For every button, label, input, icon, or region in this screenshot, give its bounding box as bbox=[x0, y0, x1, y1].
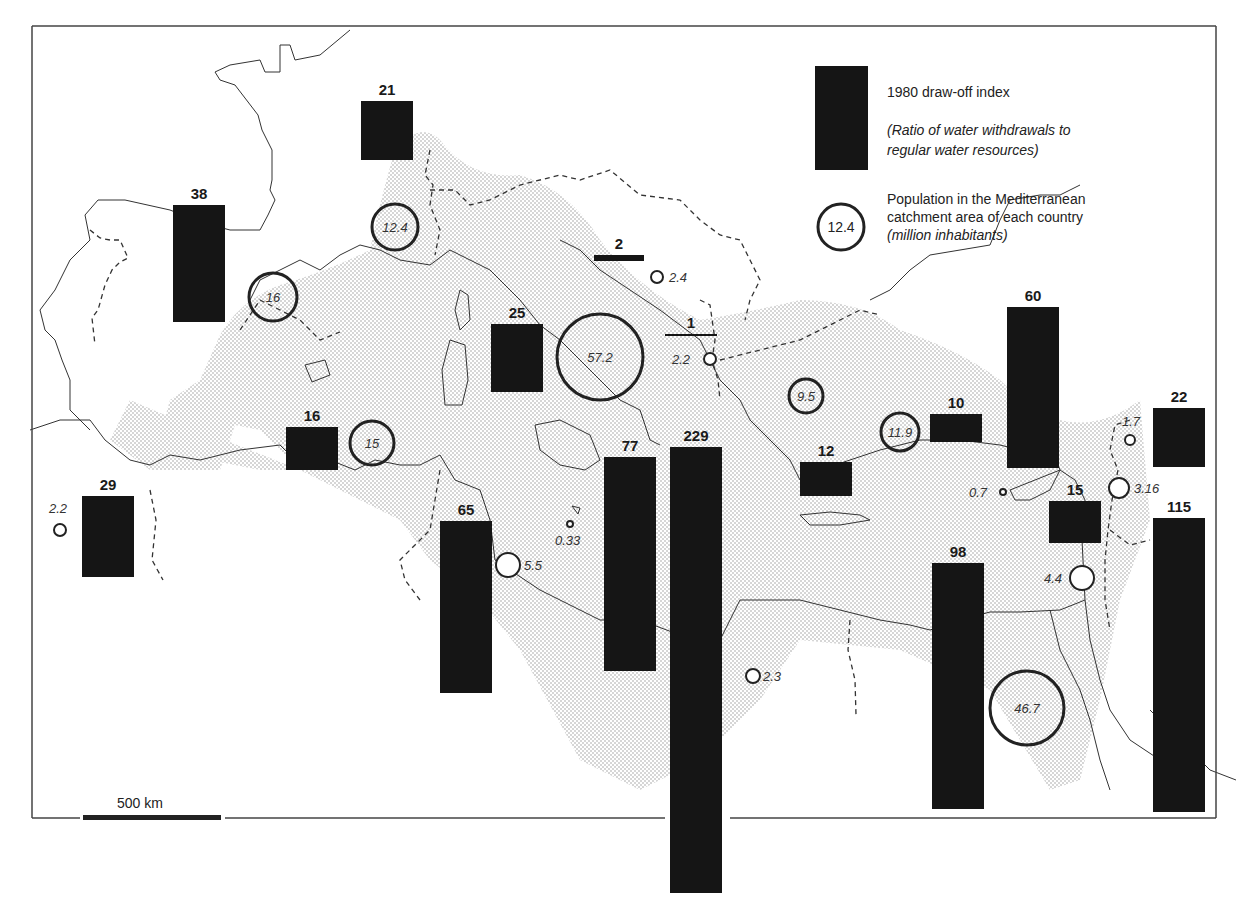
population-label: 3.16 bbox=[1134, 481, 1160, 496]
legend-circle-title-1: Population in the Mediterranean bbox=[887, 191, 1085, 207]
draw-off-bar: 21 bbox=[361, 81, 413, 160]
population-label: 2.3 bbox=[762, 669, 782, 684]
bar-rect bbox=[361, 101, 413, 160]
scale-label: 500 km bbox=[117, 795, 163, 811]
population-label: 4.4 bbox=[1044, 571, 1062, 586]
bar-rect bbox=[1153, 518, 1205, 812]
bar-value-label: 1 bbox=[687, 314, 695, 331]
legend: 1980 draw-off index (Ratio of water with… bbox=[815, 66, 1085, 250]
population-label: 16 bbox=[266, 290, 281, 305]
bar-rect bbox=[670, 447, 722, 893]
bar-value-label: 60 bbox=[1025, 287, 1042, 304]
draw-off-bar: 38 bbox=[173, 185, 225, 322]
population-label: 2.4 bbox=[668, 270, 687, 285]
bar-value-label: 229 bbox=[683, 427, 708, 444]
bar-rect bbox=[594, 255, 644, 261]
circle-shape bbox=[746, 669, 760, 683]
population-label: 0.33 bbox=[555, 533, 581, 548]
circle-shape bbox=[1109, 478, 1129, 498]
legend-circle-sample: 12.4 bbox=[827, 219, 854, 235]
population-circle: 2.4 bbox=[651, 270, 687, 285]
legend-circle-desc: (million inhabitants) bbox=[887, 227, 1008, 243]
population-label: 15 bbox=[365, 436, 380, 451]
circle-shape bbox=[1125, 435, 1135, 445]
bar-rect bbox=[665, 334, 717, 336]
population-label: 12.4 bbox=[382, 220, 407, 235]
bar-rect bbox=[286, 427, 338, 470]
legend-bar-desc-1: (Ratio of water withdrawals to bbox=[887, 122, 1071, 138]
population-label: 5.5 bbox=[524, 558, 543, 573]
population-label: 1.7 bbox=[1122, 414, 1141, 429]
legend-circle-title-2: catchment area of each country bbox=[887, 209, 1083, 225]
draw-off-bar: 77 bbox=[604, 437, 656, 671]
population-label: 2.2 bbox=[48, 501, 68, 516]
mediterranean-map: 500 km 1980 draw-off index (Ratio of wat… bbox=[0, 0, 1236, 908]
scale-bar: 500 km bbox=[83, 795, 221, 820]
bar-value-label: 10 bbox=[948, 394, 965, 411]
draw-off-bar: 98 bbox=[932, 543, 984, 809]
population-label: 0.7 bbox=[969, 485, 988, 500]
population-label: 11.9 bbox=[888, 425, 912, 440]
draw-off-bar: 229 bbox=[670, 427, 722, 893]
draw-off-bar: 29 bbox=[82, 476, 134, 577]
bar-rect bbox=[82, 496, 134, 577]
bar-rect bbox=[930, 414, 982, 442]
bar-value-label: 65 bbox=[458, 501, 475, 518]
bar-rect bbox=[173, 205, 225, 322]
bar-value-label: 16 bbox=[304, 407, 321, 424]
bar-value-label: 38 bbox=[191, 185, 208, 202]
population-circle: 2.3 bbox=[746, 669, 782, 684]
bar-rect bbox=[491, 324, 543, 392]
circle-shape bbox=[1000, 489, 1006, 495]
bar-value-label: 29 bbox=[100, 476, 117, 493]
bar-value-label: 12 bbox=[818, 442, 835, 459]
circle-shape bbox=[704, 353, 716, 365]
population-circle: 2.2 bbox=[48, 501, 68, 536]
bar-value-label: 115 bbox=[1167, 498, 1191, 515]
bar-value-label: 77 bbox=[622, 437, 639, 454]
draw-off-bar: 115 bbox=[1153, 498, 1205, 812]
population-label: 2.2 bbox=[671, 352, 691, 367]
legend-bar-swatch bbox=[815, 66, 868, 170]
bar-value-label: 2 bbox=[615, 235, 623, 252]
bar-rect bbox=[1049, 501, 1101, 543]
bar-value-label: 15 bbox=[1067, 481, 1084, 498]
circle-shape bbox=[651, 271, 663, 283]
population-circle: 3.16 bbox=[1109, 478, 1160, 498]
bar-value-label: 98 bbox=[950, 543, 967, 560]
bar-rect bbox=[440, 521, 492, 693]
bar-value-label: 25 bbox=[509, 304, 526, 321]
legend-bar-title: 1980 draw-off index bbox=[887, 84, 1010, 100]
bar-rect bbox=[932, 563, 984, 809]
bar-value-label: 21 bbox=[379, 81, 396, 98]
draw-off-bar: 22 bbox=[1153, 388, 1205, 467]
population-label: 9.5 bbox=[797, 389, 816, 404]
bar-rect bbox=[1153, 408, 1205, 467]
population-label: 57.2 bbox=[587, 350, 613, 365]
draw-off-bar: 65 bbox=[440, 501, 492, 693]
circle-shape bbox=[1070, 566, 1094, 590]
circle-shape bbox=[496, 553, 520, 577]
bar-value-label: 22 bbox=[1171, 388, 1188, 405]
bar-rect bbox=[1007, 307, 1059, 468]
bar-rect bbox=[604, 457, 656, 671]
circle-shape bbox=[54, 524, 66, 536]
population-label: 46.7 bbox=[1014, 701, 1040, 716]
legend-bar-desc-2: regular water resources) bbox=[887, 142, 1039, 158]
circle-shape bbox=[567, 521, 573, 527]
bar-rect bbox=[800, 462, 852, 496]
draw-off-bar: 60 bbox=[1007, 287, 1059, 468]
